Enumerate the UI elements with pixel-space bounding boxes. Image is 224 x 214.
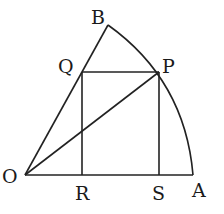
sector-diagram: O A B P Q R S bbox=[0, 0, 224, 214]
label-b: B bbox=[91, 6, 105, 28]
segment-ob bbox=[25, 25, 108, 175]
segment-op bbox=[25, 72, 159, 175]
label-p: P bbox=[162, 55, 175, 77]
label-q: Q bbox=[58, 55, 74, 77]
arc-ab bbox=[108, 25, 193, 175]
label-o: O bbox=[2, 165, 18, 187]
label-a: A bbox=[191, 179, 206, 201]
label-r: R bbox=[75, 182, 90, 204]
label-s: S bbox=[152, 182, 165, 204]
